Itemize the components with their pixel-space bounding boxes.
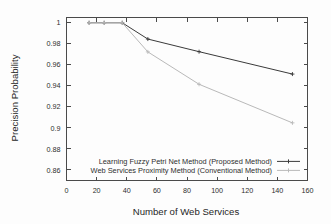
chart-legend: Learning Fuzzy Petri Net Method (Propose…: [91, 157, 300, 175]
x-axis-title: Number of Web Services: [133, 206, 240, 217]
x-tick-label: 140: [271, 186, 283, 195]
data-point-marker: [290, 121, 294, 125]
data-point-marker: [197, 50, 201, 54]
y-tick-label: 0.9: [51, 124, 61, 133]
line-chart: 0.860.880.90.920.940.960.981 02040608010…: [0, 0, 331, 224]
y-tick-label: 1: [57, 18, 61, 27]
data-point-marker: [290, 72, 294, 76]
x-tick-label: 20: [93, 186, 101, 195]
x-tick-label: 0: [65, 186, 69, 195]
x-tick-label: 100: [211, 186, 223, 195]
x-tick-label: 40: [123, 186, 131, 195]
data-point-marker: [87, 21, 91, 25]
legend-entry-label: Learning Fuzzy Petri Net Method (Propose…: [99, 157, 272, 166]
y-tick-label: 0.96: [47, 60, 61, 69]
data-series-layer: [87, 21, 294, 125]
x-tick-label: 120: [241, 186, 253, 195]
chart-figure: 0.860.880.90.920.940.960.981 02040608010…: [0, 0, 331, 224]
y-tick-label: 0.92: [47, 102, 61, 111]
series-line: [89, 23, 292, 74]
y-tick-label: 0.88: [47, 145, 61, 154]
y-axis-tick-labels: 0.860.880.90.920.940.960.981: [47, 18, 61, 174]
y-tick-label: 0.86: [47, 166, 61, 175]
x-tick-label: 160: [302, 186, 314, 195]
y-tick-label: 0.98: [47, 39, 61, 48]
x-axis-tick-labels: 020406080100120140160: [65, 186, 314, 195]
y-axis-title: Precision Probability: [9, 54, 20, 141]
legend-entry-label: Web Services Proximity Method (Conventio…: [91, 166, 272, 175]
series-line: [89, 23, 292, 123]
data-point-marker: [102, 21, 106, 25]
x-tick-label: 60: [153, 186, 161, 195]
y-axis-tick-marks: [67, 23, 308, 170]
x-tick-label: 80: [183, 186, 191, 195]
y-tick-label: 0.94: [47, 81, 61, 90]
